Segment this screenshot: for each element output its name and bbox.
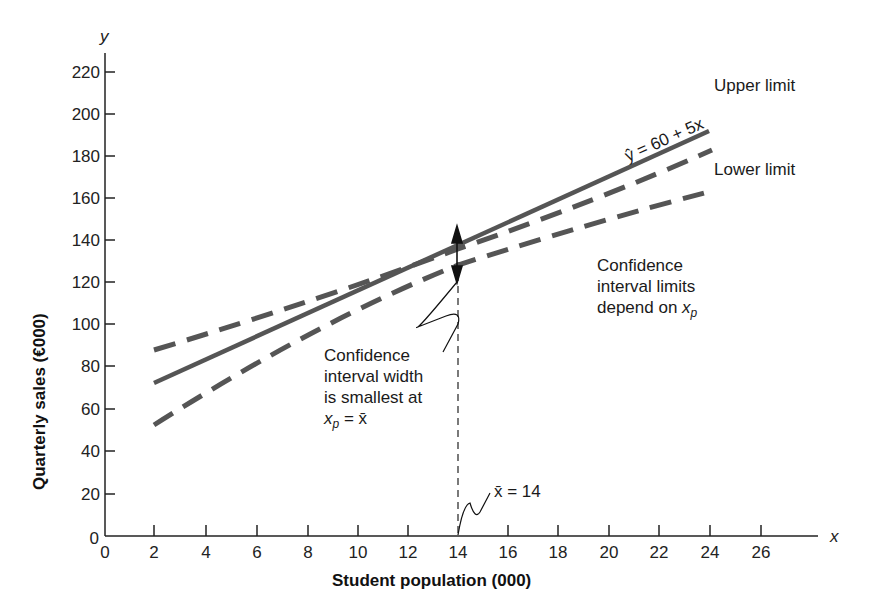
svg-text:20: 20 — [600, 543, 619, 562]
svg-text:8: 8 — [303, 543, 312, 562]
svg-text:180: 180 — [72, 147, 100, 166]
svg-text:interval limits: interval limits — [597, 277, 695, 296]
svg-text:220: 220 — [72, 63, 100, 82]
svg-text:160: 160 — [72, 189, 100, 208]
svg-text:26: 26 — [752, 543, 771, 562]
svg-text:is smallest at: is smallest at — [324, 388, 423, 407]
xbar-leader-line — [458, 493, 490, 535]
confidence-interval-chart: 220 200 180 160 140 120 100 80 60 40 20 … — [0, 0, 885, 616]
svg-text:6: 6 — [252, 543, 261, 562]
lower-limit-label: Lower limit — [714, 160, 796, 179]
x-tick-labels: 0 2 4 6 8 10 12 14 16 18 20 22 24 26 — [100, 543, 770, 562]
width-arrow — [452, 226, 462, 283]
svg-text:Confidence: Confidence — [597, 256, 683, 275]
svg-text:Confidence: Confidence — [324, 346, 410, 365]
svg-text:depend on xp: depend on xp — [597, 298, 698, 320]
svg-text:60: 60 — [81, 400, 100, 419]
svg-text:4: 4 — [201, 543, 210, 562]
depend-annotation: Confidence interval limits depend on xp — [597, 256, 698, 320]
x-axis-title: Student population (000) — [332, 571, 531, 590]
svg-text:40: 40 — [81, 442, 100, 461]
y-tick-labels: 220 200 180 160 140 120 100 80 60 40 20 … — [72, 63, 100, 548]
svg-text:22: 22 — [650, 543, 669, 562]
svg-text:120: 120 — [72, 273, 100, 292]
y-axis-title: Quarterly sales (€000) — [30, 313, 49, 490]
svg-text:100: 100 — [72, 315, 100, 334]
svg-text:0: 0 — [90, 529, 99, 548]
svg-text:10: 10 — [349, 543, 368, 562]
svg-text:0: 0 — [100, 543, 109, 562]
width-annotation: Confidence interval width is smallest at… — [323, 346, 423, 431]
y-ticks — [105, 72, 115, 494]
svg-text:18: 18 — [549, 543, 568, 562]
width-leader-line — [417, 282, 459, 352]
axes — [105, 53, 818, 536]
y-axis-variable: y — [99, 27, 110, 46]
upper-limit-line — [154, 150, 712, 350]
svg-text:12: 12 — [399, 543, 418, 562]
svg-text:16: 16 — [499, 543, 518, 562]
svg-text:2: 2 — [149, 543, 158, 562]
svg-text:140: 140 — [72, 231, 100, 250]
svg-text:20: 20 — [81, 485, 100, 504]
svg-text:200: 200 — [72, 105, 100, 124]
svg-text:interval width: interval width — [324, 367, 423, 386]
svg-text:14: 14 — [449, 543, 468, 562]
x-axis-variable: x — [829, 527, 839, 546]
svg-text:24: 24 — [701, 543, 720, 562]
svg-text:xp = x̄: xp = x̄ — [323, 409, 368, 431]
svg-text:80: 80 — [81, 357, 100, 376]
upper-limit-label: Upper limit — [714, 76, 796, 95]
xbar-label: x̄ = 14 — [494, 482, 541, 501]
